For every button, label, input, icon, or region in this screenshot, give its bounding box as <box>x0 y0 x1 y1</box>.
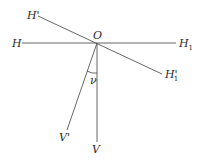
label-o: O <box>93 29 102 42</box>
label-h1-sub: 1 <box>189 44 193 52</box>
label-h1: H1 <box>178 37 193 52</box>
label-h1-main: H <box>178 37 189 50</box>
label-hprime: H' <box>26 9 40 22</box>
label-h1prime-sub: 1 <box>174 75 178 83</box>
label-vprime: V' <box>59 131 70 144</box>
line-hprime-h1prime <box>38 16 162 74</box>
label-v: V <box>92 143 101 156</box>
label-nu: ν <box>90 74 97 87</box>
angle-arc <box>87 71 97 73</box>
geometry-diagram: O H H1 H' H'1 ν V' V <box>0 0 198 162</box>
label-h: H <box>11 37 22 50</box>
label-h1prime: H'1 <box>164 68 178 83</box>
